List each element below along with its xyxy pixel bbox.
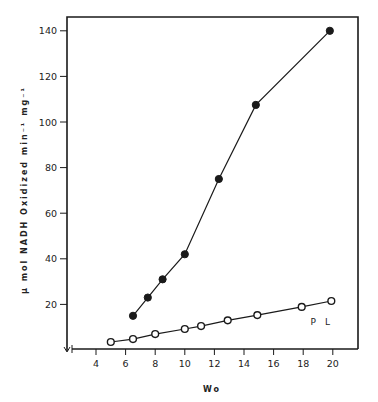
- filled-data-point: [252, 101, 259, 108]
- y-tick-label: 140: [39, 25, 57, 36]
- x-axis-ticks: 468101214161820: [93, 349, 339, 369]
- x-tick-label: 14: [238, 358, 250, 369]
- data-series: [107, 27, 334, 345]
- y-tick-label: 20: [45, 299, 57, 310]
- filled-data-point: [326, 27, 333, 34]
- y-tick-label: 120: [39, 71, 57, 82]
- y-tick-label: 80: [45, 162, 57, 173]
- y-tick-label: 60: [45, 208, 57, 219]
- x-tick-label: 4: [93, 358, 99, 369]
- open-data-point: [181, 326, 188, 333]
- x-tick-label: 20: [327, 358, 339, 369]
- x-tick-label: 6: [123, 358, 129, 369]
- pl-annotation: P L: [311, 317, 333, 327]
- chart: 20406080100120140 468101214161820 Wo μ m…: [0, 0, 378, 402]
- y-tick-label: 100: [39, 117, 57, 128]
- open-data-point: [328, 298, 335, 305]
- open-data-point: [107, 339, 114, 346]
- plot-frame: [64, 17, 358, 353]
- open-data-point: [254, 312, 261, 319]
- x-axis-title: Wo: [203, 385, 221, 394]
- filled-data-point: [215, 175, 222, 182]
- open-data-point: [198, 323, 205, 330]
- filled-data-point: [159, 276, 166, 283]
- open-data-point: [152, 331, 159, 338]
- x-tick-label: 8: [152, 358, 158, 369]
- x-tick-label: 18: [297, 358, 309, 369]
- filled-data-point: [129, 312, 136, 319]
- y-axis-title: μ mol NADH Oxidized min⁻¹ mg⁻¹: [20, 86, 29, 294]
- open-data-point: [130, 336, 137, 343]
- open-data-point: [224, 317, 231, 324]
- y-tick-label: 40: [45, 253, 57, 264]
- x-tick-label: 12: [208, 358, 220, 369]
- filled-data-point: [181, 251, 188, 258]
- filled-data-point: [144, 294, 151, 301]
- x-tick-label: 10: [179, 358, 191, 369]
- y-axis-ticks: 20406080100120140: [39, 25, 67, 310]
- x-tick-label: 16: [268, 358, 280, 369]
- open-data-point: [298, 304, 305, 311]
